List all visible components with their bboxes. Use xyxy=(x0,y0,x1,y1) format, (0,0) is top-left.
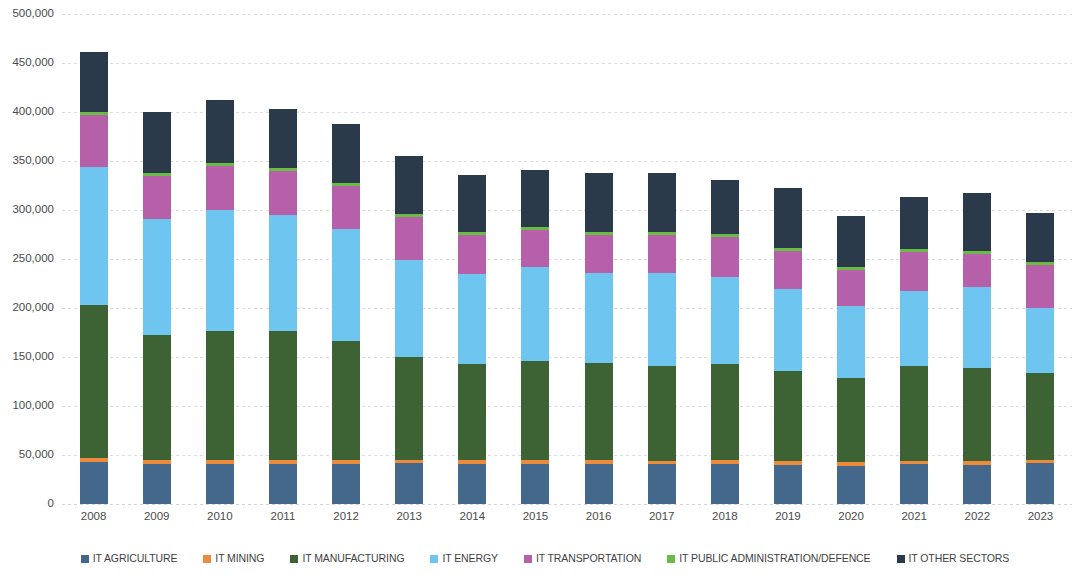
bar-segment[interactable] xyxy=(269,464,297,504)
bar-segment[interactable] xyxy=(1026,262,1054,265)
bar-segment[interactable] xyxy=(774,251,802,289)
bar-segment[interactable] xyxy=(458,274,486,364)
bar-segment[interactable] xyxy=(648,232,676,235)
legend-item[interactable]: IT AGRICULTURE xyxy=(81,553,178,564)
bar-segment[interactable] xyxy=(332,183,360,186)
bar-segment[interactable] xyxy=(143,464,171,504)
bar-segment[interactable] xyxy=(521,361,549,460)
bar-segment[interactable] xyxy=(774,465,802,504)
bar-segment[interactable] xyxy=(1026,213,1054,262)
bar-group[interactable] xyxy=(269,14,297,504)
bar-segment[interactable] xyxy=(1026,463,1054,504)
bar-segment[interactable] xyxy=(648,464,676,504)
bar-segment[interactable] xyxy=(963,193,991,251)
bar-group[interactable] xyxy=(963,14,991,504)
bar-segment[interactable] xyxy=(648,366,676,461)
bar-segment[interactable] xyxy=(585,363,613,460)
bar-group[interactable] xyxy=(1026,14,1054,504)
bar-segment[interactable] xyxy=(143,176,171,219)
bar-segment[interactable] xyxy=(585,232,613,235)
bar-segment[interactable] xyxy=(269,171,297,215)
bar-segment[interactable] xyxy=(332,229,360,342)
bar-segment[interactable] xyxy=(837,378,865,462)
legend-item[interactable]: IT MANUFACTURING xyxy=(290,553,404,564)
bar-segment[interactable] xyxy=(458,232,486,235)
bar-segment[interactable] xyxy=(521,464,549,504)
bar-segment[interactable] xyxy=(774,371,802,461)
bar-segment[interactable] xyxy=(837,267,865,270)
bar-segment[interactable] xyxy=(80,462,108,504)
bar-group[interactable] xyxy=(711,14,739,504)
bar-segment[interactable] xyxy=(395,463,423,504)
bar-segment[interactable] xyxy=(269,168,297,171)
bar-segment[interactable] xyxy=(585,173,613,232)
bar-segment[interactable] xyxy=(143,112,171,173)
bar-segment[interactable] xyxy=(143,335,171,459)
bar-segment[interactable] xyxy=(395,214,423,217)
bar-segment[interactable] xyxy=(837,270,865,305)
bar-segment[interactable] xyxy=(1026,265,1054,308)
bar-segment[interactable] xyxy=(80,167,108,305)
bar-segment[interactable] xyxy=(332,124,360,183)
bar-segment[interactable] xyxy=(206,464,234,504)
bar-segment[interactable] xyxy=(521,230,549,267)
legend-item[interactable]: IT MINING xyxy=(203,553,264,564)
bar-group[interactable] xyxy=(774,14,802,504)
bar-segment[interactable] xyxy=(774,461,802,464)
bar-segment[interactable] xyxy=(648,235,676,273)
bar-segment[interactable] xyxy=(80,52,108,112)
bar-segment[interactable] xyxy=(521,170,549,227)
bar-segment[interactable] xyxy=(585,464,613,504)
bar-segment[interactable] xyxy=(143,219,171,336)
bar-segment[interactable] xyxy=(837,216,865,267)
bar-segment[interactable] xyxy=(585,460,613,463)
bar-segment[interactable] xyxy=(395,260,423,357)
bar-group[interactable] xyxy=(648,14,676,504)
bar-segment[interactable] xyxy=(963,254,991,287)
bar-segment[interactable] xyxy=(900,461,928,464)
bar-segment[interactable] xyxy=(963,465,991,504)
bar-segment[interactable] xyxy=(774,248,802,251)
bar-segment[interactable] xyxy=(395,357,423,460)
bar-segment[interactable] xyxy=(521,460,549,463)
legend-item[interactable]: IT TRANSPORTATION xyxy=(524,553,641,564)
legend-item[interactable]: IT ENERGY xyxy=(430,553,498,564)
bar-group[interactable] xyxy=(900,14,928,504)
bar-segment[interactable] xyxy=(900,252,928,291)
bar-group[interactable] xyxy=(332,14,360,504)
bar-segment[interactable] xyxy=(963,368,991,461)
bar-segment[interactable] xyxy=(458,235,486,274)
bar-segment[interactable] xyxy=(711,237,739,277)
bar-group[interactable] xyxy=(837,14,865,504)
bar-segment[interactable] xyxy=(206,166,234,210)
bar-segment[interactable] xyxy=(900,366,928,461)
bar-segment[interactable] xyxy=(837,462,865,465)
bar-segment[interactable] xyxy=(206,100,234,163)
bar-segment[interactable] xyxy=(206,331,234,460)
legend-item[interactable]: IT PUBLIC ADMINISTRATION/DEFENCE xyxy=(667,553,870,564)
bar-segment[interactable] xyxy=(206,163,234,166)
bar-group[interactable] xyxy=(585,14,613,504)
bar-segment[interactable] xyxy=(900,197,928,249)
bar-segment[interactable] xyxy=(206,460,234,464)
bar-segment[interactable] xyxy=(1026,373,1054,461)
bar-segment[interactable] xyxy=(521,267,549,361)
bar-segment[interactable] xyxy=(332,341,360,460)
bar-segment[interactable] xyxy=(269,109,297,168)
bar-segment[interactable] xyxy=(143,173,171,176)
bar-segment[interactable] xyxy=(332,464,360,504)
bar-segment[interactable] xyxy=(332,460,360,464)
bar-group[interactable] xyxy=(206,14,234,504)
bar-segment[interactable] xyxy=(143,460,171,464)
legend-item[interactable]: IT OTHER SECTORS xyxy=(897,553,1010,564)
bar-segment[interactable] xyxy=(458,460,486,463)
bar-segment[interactable] xyxy=(458,464,486,504)
bar-segment[interactable] xyxy=(395,460,423,463)
bar-segment[interactable] xyxy=(1026,308,1054,373)
bar-segment[interactable] xyxy=(521,227,549,230)
bar-segment[interactable] xyxy=(332,186,360,229)
bar-segment[interactable] xyxy=(395,217,423,260)
bar-segment[interactable] xyxy=(963,287,991,368)
bar-segment[interactable] xyxy=(269,460,297,464)
bar-segment[interactable] xyxy=(458,364,486,460)
